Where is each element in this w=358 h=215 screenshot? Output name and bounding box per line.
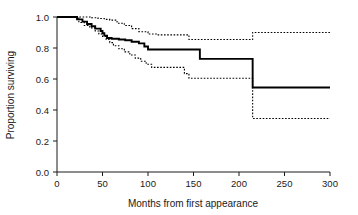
y-tick-label: 1.0 <box>36 12 49 23</box>
x-tick-label: 250 <box>277 178 293 189</box>
y-axis-tick-labels: 0.00.20.40.60.81.0 <box>36 12 49 178</box>
x-axis-tick-labels: 050100150200250300 <box>54 178 338 189</box>
x-tick-label: 0 <box>54 178 59 189</box>
x-tick-label: 200 <box>231 178 247 189</box>
x-axis-ticks <box>57 172 330 176</box>
x-tick-label: 50 <box>97 178 108 189</box>
survival-curve-confidence-limit <box>57 17 330 119</box>
y-axis-title: Proportion surviving <box>5 51 16 139</box>
x-tick-label: 300 <box>322 178 338 189</box>
y-tick-label: 0.4 <box>36 105 49 116</box>
x-tick-label: 150 <box>186 178 202 189</box>
x-tick-label: 100 <box>140 178 156 189</box>
y-tick-label: 0.6 <box>36 74 49 85</box>
survival-plot-svg: 050100150200250300 0.00.20.40.60.81.0 Mo… <box>0 0 358 215</box>
survival-chart-figure: 050100150200250300 0.00.20.40.60.81.0 Mo… <box>0 0 358 215</box>
y-tick-label: 0.2 <box>36 136 49 147</box>
survival-curve-estimate <box>57 17 330 88</box>
axis-lines <box>57 17 330 172</box>
y-axis-ticks <box>53 17 57 172</box>
survival-curves <box>57 17 330 119</box>
x-axis-title: Months from first appearance <box>128 198 258 209</box>
y-tick-label: 0.0 <box>36 167 49 178</box>
y-tick-label: 0.8 <box>36 43 49 54</box>
